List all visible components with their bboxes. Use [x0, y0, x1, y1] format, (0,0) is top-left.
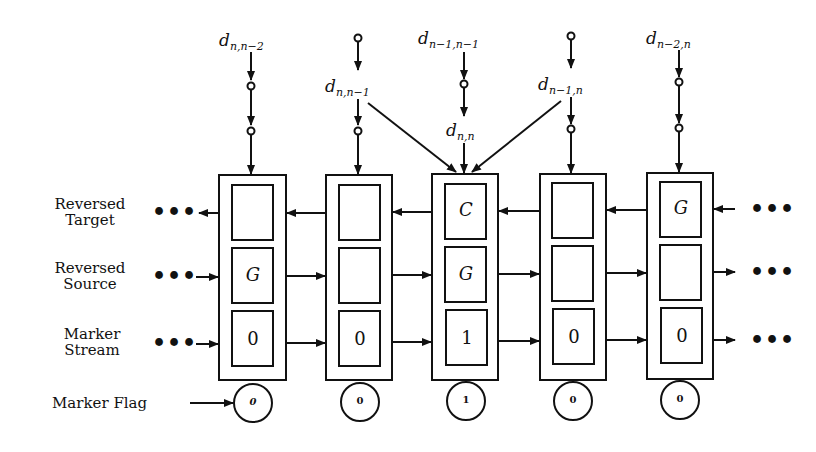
ellipsis-right-target: •••	[750, 195, 795, 221]
label-line: Source	[40, 276, 140, 292]
label-line: Target	[40, 212, 140, 228]
ellipsis-left-source: •••	[152, 262, 197, 288]
label-marker-stream: Marker Stream	[42, 326, 142, 358]
cell-3-marker: 1	[445, 327, 489, 348]
label-sub: n,n	[457, 130, 475, 143]
label-base: d	[538, 74, 549, 94]
label-reversed-source: Reversed Source	[40, 260, 140, 292]
cell-3-target: C	[444, 199, 488, 220]
input-chain-2	[355, 35, 362, 175]
cell-1-marker: 0	[231, 328, 275, 349]
label-marker-flag: Marker Flag	[52, 395, 187, 411]
label-sub: n−2,n	[657, 38, 691, 51]
input-chain-4	[568, 33, 575, 174]
flag-value-3: 1	[451, 394, 481, 405]
label-reversed-target: Reversed Target	[40, 196, 140, 228]
input-label-d-n-1-n: dn−1,n	[538, 74, 583, 97]
cell-2-marker: 0	[338, 328, 382, 349]
cell-5-marker: 0	[660, 325, 704, 346]
label-sub: n,n−1	[336, 86, 370, 99]
cell-4-outer	[540, 174, 606, 380]
label-base: d	[646, 28, 657, 48]
label-base: d	[446, 120, 457, 140]
cell-5-target: G	[659, 197, 703, 218]
label-base: d	[418, 28, 429, 48]
ellipsis-left-target: •••	[152, 198, 197, 224]
flag-value-1: 0	[238, 396, 268, 407]
label-sub: n−1,n	[549, 84, 583, 97]
label-line: Stream	[42, 342, 142, 358]
ellipsis-left-marker: •••	[152, 329, 197, 355]
cell-3-source: G	[444, 263, 488, 284]
label-sub: n−1,n−1	[429, 38, 479, 51]
input-label-d-n-1-n-1: dn−1,n−1	[418, 28, 479, 51]
input-label-d-n-n-2: dn,n−2	[219, 30, 264, 53]
cell-1-source: G	[231, 264, 275, 285]
ellipsis-right-marker: •••	[750, 326, 795, 352]
input-chain-1	[248, 52, 255, 174]
input-chain-5	[676, 50, 683, 172]
cell-4-marker: 0	[552, 326, 596, 347]
flag-value-2: 0	[345, 395, 375, 406]
label-base: d	[219, 30, 230, 50]
label-line: Reversed	[40, 260, 140, 276]
input-label-d-n-n-1: dn,n−1	[325, 76, 370, 99]
ellipsis-right-source: •••	[750, 258, 795, 284]
cell-2-outer	[326, 175, 392, 380]
input-label-d-n-2-n: dn−2,n	[646, 28, 691, 51]
label-sub: n,n−2	[230, 40, 264, 53]
flag-value-5: 0	[665, 393, 695, 404]
label-line: Reversed	[40, 196, 140, 212]
flag-value-4: 0	[558, 394, 588, 405]
label-base: d	[325, 76, 336, 96]
input-chain-3	[368, 52, 561, 173]
input-label-d-n-n: dn,n	[446, 120, 475, 143]
label-line: Marker	[42, 326, 142, 342]
